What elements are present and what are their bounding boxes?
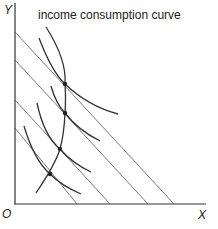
x-axis-label: X (198, 208, 206, 222)
diagram-canvas (0, 0, 218, 229)
budget-line-2 (15, 60, 148, 204)
indifference-curve-2 (51, 86, 100, 141)
equilibrium-point-1 (63, 82, 67, 86)
origin-label: O (2, 207, 11, 221)
diagram-title: income consumption curve (38, 8, 181, 22)
equilibrium-point-4 (48, 172, 52, 176)
budget-line-4 (15, 128, 77, 204)
budget-line-1 (15, 32, 174, 204)
indifference-curve-1 (39, 38, 118, 114)
equilibrium-point-3 (58, 147, 62, 151)
y-axis-label: Y (4, 3, 12, 17)
equilibrium-point-2 (63, 111, 67, 115)
